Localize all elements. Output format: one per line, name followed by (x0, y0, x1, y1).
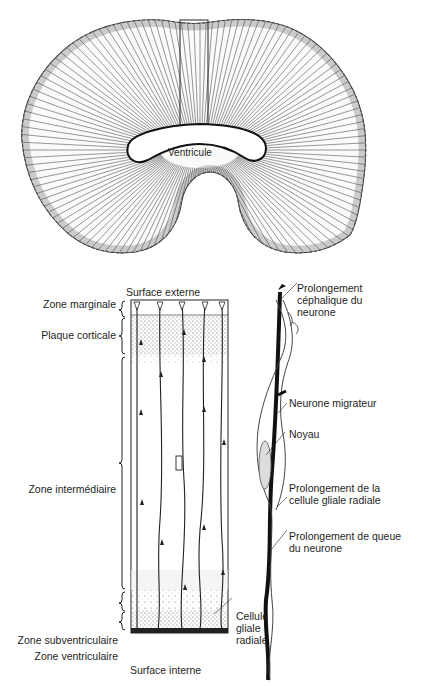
zone-ventricular-label: Zone ventriculaire (35, 650, 118, 662)
trailing-process-label: Prolongement de queue du neurone (289, 530, 409, 554)
radial-glia-label: Cellule gliale radiale (236, 610, 276, 646)
zone-intermediate-label: Zone intermédiaire (28, 483, 116, 495)
leading-process-label: Prolongement céphalique du neurone (297, 282, 387, 318)
cortical-column (131, 300, 228, 633)
zone-marginal-label: Zone marginale (43, 298, 116, 310)
zone-braces (119, 301, 125, 630)
zone-cortical-plate-label: Plaque corticale (41, 329, 116, 341)
ventricle-label: Ventricule (168, 147, 212, 159)
migrating-neuron-label: Neurone migrateur (289, 397, 377, 409)
surface-internal-label: Surface interne (130, 664, 201, 676)
zone-subventricular-label: Zone subventriculaire (18, 634, 118, 646)
nucleus-label: Noyau (289, 428, 319, 440)
surface-external-label: Surface externe (126, 286, 200, 298)
glial-process-label: Prolongement de la cellule gliale radial… (289, 482, 404, 506)
diagram-canvas (0, 0, 421, 686)
